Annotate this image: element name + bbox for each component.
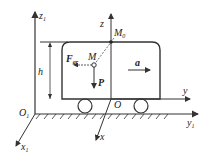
label-z: z <box>99 18 104 29</box>
label-y1: y1 <box>186 117 194 129</box>
label-z1: z1 <box>38 10 46 22</box>
label-f-gr: Fgr <box>65 53 79 65</box>
label-a: a <box>135 57 140 68</box>
label-m: M <box>87 51 97 62</box>
label-x: x <box>99 131 105 142</box>
label-y: y <box>182 85 188 96</box>
point-m <box>92 63 96 67</box>
label-o1: O1 <box>19 107 29 119</box>
label-o: O <box>114 99 121 110</box>
label-m0: M0 <box>113 27 125 39</box>
label-x1: x1 <box>20 141 28 153</box>
label-h: h <box>38 66 43 77</box>
ground <box>35 114 198 119</box>
wheel-right <box>134 99 148 113</box>
label-p: P <box>98 77 105 88</box>
mechanics-diagram: z1 z M0 h Fgr M a P y O O1 y1 x x1 <box>0 0 210 166</box>
wheel-left <box>78 99 92 113</box>
